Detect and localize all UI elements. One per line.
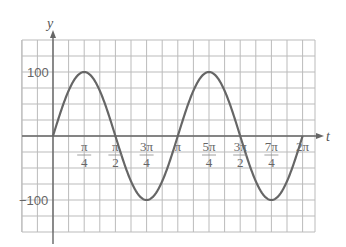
svg-text:π: π xyxy=(81,139,88,154)
svg-text:2: 2 xyxy=(112,155,119,170)
x-tick-label: 5π4 xyxy=(202,139,216,170)
svg-text:4: 4 xyxy=(143,155,150,170)
x-tick-label: π xyxy=(175,139,182,154)
y-tick-100: 100 xyxy=(27,65,49,80)
svg-text:4: 4 xyxy=(206,155,213,170)
y-tick-neg100: −100 xyxy=(19,193,48,208)
svg-text:3π: 3π xyxy=(140,139,154,154)
axes xyxy=(22,30,324,244)
svg-text:2π: 2π xyxy=(296,139,310,154)
svg-text:4: 4 xyxy=(81,155,88,170)
svg-text:π: π xyxy=(112,139,119,154)
svg-text:4: 4 xyxy=(268,155,275,170)
svg-text:3π: 3π xyxy=(234,139,248,154)
x-tick-label: 3π4 xyxy=(140,139,154,170)
svg-text:7π: 7π xyxy=(265,139,279,154)
svg-text:5π: 5π xyxy=(202,139,216,154)
y-axis-label: y xyxy=(45,16,54,31)
svg-text:2: 2 xyxy=(237,155,244,170)
t-axis-label: t xyxy=(326,129,331,144)
x-tick-label: π4 xyxy=(77,139,91,170)
sine-chart: π4π23π4π5π43π27π42π 100 −100 y t xyxy=(0,0,346,247)
svg-text:π: π xyxy=(175,139,182,154)
x-tick-label: 7π4 xyxy=(264,139,278,170)
x-tick-label: 2π xyxy=(296,139,310,154)
